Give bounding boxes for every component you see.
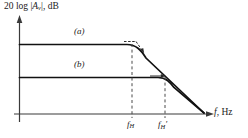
- x-tick-fhp-prime: ′: [165, 119, 167, 129]
- y-axis: [17, 15, 23, 122]
- curve-b-label: (b): [74, 60, 85, 69]
- y-axis-label-suffix: |, dB: [41, 1, 59, 11]
- curve-a-label: (a): [74, 27, 85, 36]
- x-axis-label-suffix: , Hz: [217, 107, 233, 117]
- x-axis: [14, 111, 214, 117]
- x-tick-fh-subscript: H: [130, 122, 135, 129]
- bode-plot-figure: 20 log |Av|, dB f, Hz (a) (b) fH fH′: [0, 0, 248, 138]
- y-axis-label: 20 log |Av|, dB: [4, 2, 59, 12]
- x-axis-label: f, Hz: [214, 108, 232, 118]
- curve-b: [20, 78, 205, 114]
- x-tick-label-fh-prime: fH′: [158, 119, 167, 130]
- x-tick-label-fh: fH: [127, 119, 134, 129]
- plot-canvas: [0, 0, 248, 138]
- y-axis-label-prefix: 20 log |: [4, 1, 32, 11]
- curve-a: [20, 45, 205, 114]
